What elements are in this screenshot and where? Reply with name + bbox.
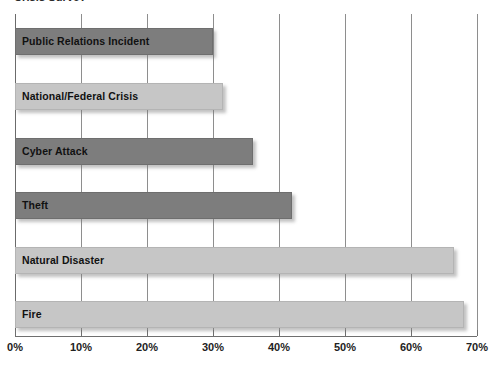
tick-mark-10 bbox=[81, 330, 82, 336]
x-tick-label: 70% bbox=[466, 341, 488, 353]
bar-category-label: Fire bbox=[22, 301, 42, 328]
gridline-20 bbox=[147, 14, 148, 336]
bar-category-label: Public Relations Incident bbox=[22, 28, 149, 55]
x-tick-label: 0% bbox=[7, 341, 23, 353]
x-tick-label: 60% bbox=[400, 341, 422, 353]
bar[interactable] bbox=[15, 301, 464, 328]
gridline-60 bbox=[411, 14, 412, 336]
bar-chart: Crisis Survey 0%10%20%30%40%50%60%70%Pub… bbox=[0, 0, 496, 366]
x-tick-label: 30% bbox=[202, 341, 224, 353]
bar-row[interactable]: Fire bbox=[15, 301, 464, 328]
plot-area bbox=[15, 14, 476, 336]
tick-mark-60 bbox=[411, 330, 412, 336]
chart-title: Crisis Survey bbox=[14, 0, 86, 1]
tick-mark-50 bbox=[345, 330, 346, 336]
bar-row[interactable]: Cyber Attack bbox=[15, 138, 253, 165]
bar-row[interactable]: Public Relations Incident bbox=[15, 28, 213, 55]
gridline-0 bbox=[15, 14, 16, 336]
x-tick-label: 40% bbox=[268, 341, 290, 353]
gridline-50 bbox=[345, 14, 346, 336]
x-tick-label: 20% bbox=[136, 341, 158, 353]
bar-category-label: Natural Disaster bbox=[22, 247, 104, 274]
gridline-30 bbox=[213, 14, 214, 336]
bar-row[interactable]: Natural Disaster bbox=[15, 247, 454, 274]
x-axis-line bbox=[15, 336, 477, 337]
gridline-70 bbox=[477, 14, 478, 336]
x-tick-label: 50% bbox=[334, 341, 356, 353]
x-tick-label: 10% bbox=[70, 341, 92, 353]
bar-row[interactable]: Theft bbox=[15, 192, 292, 219]
gridline-10 bbox=[81, 14, 82, 336]
bar-row[interactable]: National/Federal Crisis bbox=[15, 83, 223, 110]
bar[interactable] bbox=[15, 192, 292, 219]
tick-mark-30 bbox=[213, 330, 214, 336]
bar-category-label: Theft bbox=[22, 192, 48, 219]
bar-category-label: National/Federal Crisis bbox=[22, 83, 138, 110]
tick-mark-20 bbox=[147, 330, 148, 336]
gridline-40 bbox=[279, 14, 280, 336]
tick-mark-70 bbox=[477, 330, 478, 336]
tick-mark-40 bbox=[279, 330, 280, 336]
bar-category-label: Cyber Attack bbox=[22, 138, 88, 165]
tick-mark-0 bbox=[15, 330, 16, 336]
